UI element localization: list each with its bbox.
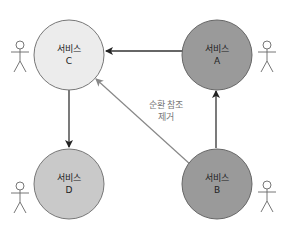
node-d-title: 서비스 (57, 173, 81, 183)
node-c-title: 서비스 (57, 44, 81, 54)
node-service-c: 서비스 C (34, 20, 104, 90)
service-dependency-diagram: 순환 참조 제거 서비스 C 서비스 A 서비스 D 서비스 B (0, 0, 288, 238)
node-a-title: 서비스 (205, 44, 229, 54)
edge-label-line1: 순환 참조 (149, 99, 184, 110)
node-service-b: 서비스 B (182, 149, 252, 219)
node-d-letter: D (66, 185, 73, 195)
edge-label-line2: 제거 (158, 112, 174, 122)
actor-icon-a (258, 41, 276, 72)
edge-b-to-c-removed-cycle (96, 79, 191, 165)
node-c-letter: C (66, 56, 72, 66)
node-a-letter: A (214, 56, 221, 66)
node-b-title: 서비스 (205, 173, 229, 183)
node-service-d: 서비스 D (34, 149, 104, 219)
actor-icon-b (258, 181, 276, 212)
actor-icon-d (11, 182, 29, 213)
actor-icon-c (11, 41, 29, 72)
node-b-letter: B (214, 185, 220, 195)
node-service-a: 서비스 A (182, 20, 252, 90)
